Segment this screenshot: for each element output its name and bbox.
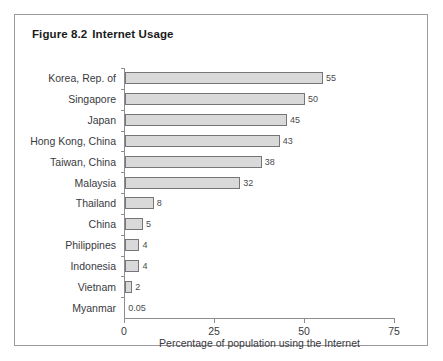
y-axis-tick <box>121 151 125 152</box>
y-axis-tick <box>121 235 125 236</box>
x-axis-tick <box>124 318 125 323</box>
y-axis-tick <box>121 68 125 69</box>
bar-row: Indonesia4 <box>125 256 395 277</box>
bar <box>125 177 240 189</box>
category-label: Myanmar <box>72 302 116 314</box>
y-axis-tick <box>121 297 125 298</box>
category-label: Hong Kong, China <box>30 135 116 147</box>
bar-row: Malaysia32 <box>125 172 395 193</box>
category-label: Indonesia <box>70 260 116 272</box>
bar <box>125 156 262 168</box>
figure-panel: Figure 8.2Internet Usage Korea, Rep. of5… <box>14 14 428 346</box>
bar-value-label: 4 <box>139 261 147 271</box>
bar-row: Philippines4 <box>125 235 395 256</box>
bar <box>125 135 280 147</box>
x-axis-title: Percentage of population using the Inter… <box>124 337 395 349</box>
y-axis-tick <box>121 172 125 173</box>
bar <box>125 197 154 209</box>
y-axis-tick <box>121 256 125 257</box>
figure-number: Figure 8.2 <box>32 28 87 40</box>
bar-value-label: 4 <box>139 240 147 250</box>
bar-row: Korea, Rep. of55 <box>125 68 395 89</box>
bar-value-label: 38 <box>262 157 275 167</box>
x-axis-tick <box>214 318 215 323</box>
y-axis-tick <box>121 276 125 277</box>
x-axis-tick-label: 0 <box>121 325 127 337</box>
bar <box>125 239 139 251</box>
figure-title: Figure 8.2Internet Usage <box>32 28 174 40</box>
bar-value-label: 5 <box>143 219 151 229</box>
figure-title-text: Internet Usage <box>92 28 173 40</box>
category-label: Philippines <box>65 239 116 251</box>
plot-area: Korea, Rep. of55Singapore50Japan45Hong K… <box>124 68 394 318</box>
bar <box>125 93 305 105</box>
bar <box>125 260 139 272</box>
category-label: Singapore <box>68 93 116 105</box>
y-axis-tick <box>121 214 125 215</box>
bar-row: Taiwan, China38 <box>125 151 395 172</box>
bar-row: Myanmar0.05 <box>125 297 395 318</box>
x-axis-tick-label: 25 <box>208 325 220 337</box>
chart-canvas: Korea, Rep. of55Singapore50Japan45Hong K… <box>15 41 429 347</box>
category-label: Thailand <box>76 197 116 209</box>
bar-value-label: 32 <box>240 178 253 188</box>
y-axis-tick <box>121 131 125 132</box>
category-label: Japan <box>87 114 116 126</box>
category-label: Vietnam <box>78 281 116 293</box>
bar <box>125 72 323 84</box>
category-label: Malaysia <box>75 177 116 189</box>
x-axis-tick <box>394 318 395 323</box>
bar <box>125 281 132 293</box>
y-axis-tick <box>121 110 125 111</box>
bar <box>125 114 287 126</box>
category-label: Korea, Rep. of <box>48 72 116 84</box>
bar-value-label: 8 <box>154 198 162 208</box>
x-axis-tick <box>304 318 305 323</box>
category-label: China <box>89 218 116 230</box>
y-axis-tick <box>121 89 125 90</box>
x-axis-line <box>124 318 395 319</box>
x-axis-tick-label: 50 <box>298 325 310 337</box>
category-label: Taiwan, China <box>50 156 116 168</box>
bar-value-label: 0.05 <box>125 303 146 313</box>
bar-row: Thailand8 <box>125 193 395 214</box>
bar-row: Vietnam2 <box>125 276 395 297</box>
bar <box>125 218 143 230</box>
bar-row: Singapore50 <box>125 89 395 110</box>
bar-row: China5 <box>125 214 395 235</box>
bar-value-label: 43 <box>280 136 293 146</box>
bar-value-label: 45 <box>287 115 300 125</box>
bar-value-label: 50 <box>305 94 318 104</box>
bar-row: Hong Kong, China43 <box>125 131 395 152</box>
x-axis-tick-label: 75 <box>388 325 400 337</box>
y-axis-tick <box>121 193 125 194</box>
bar-value-label: 2 <box>132 282 140 292</box>
bar-row: Japan45 <box>125 110 395 131</box>
bar-value-label: 55 <box>323 73 336 83</box>
